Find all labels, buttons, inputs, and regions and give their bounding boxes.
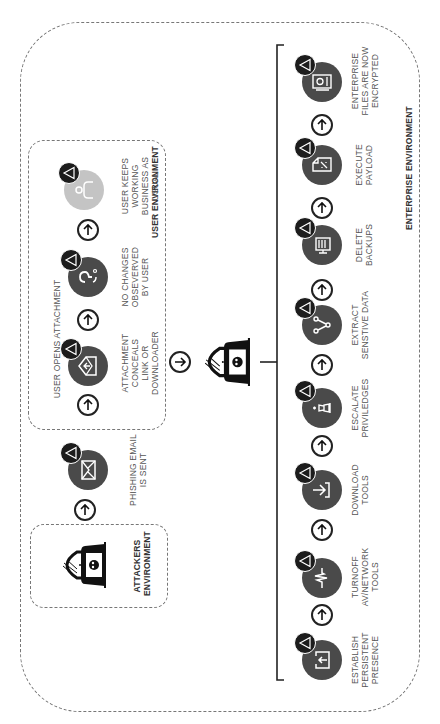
flow-arrow-right bbox=[311, 197, 333, 219]
warning-triangle-icon bbox=[298, 301, 312, 315]
warning-badge bbox=[294, 550, 316, 572]
encrypted-drive-icon bbox=[310, 70, 334, 94]
share-nodes-icon bbox=[310, 313, 334, 337]
warning-triangle-icon bbox=[298, 58, 312, 72]
pulse-icon bbox=[310, 566, 334, 590]
warning-badge bbox=[294, 137, 316, 159]
step-label: EXECUTE PAYLOAD bbox=[354, 128, 374, 202]
chess-king-icon bbox=[310, 396, 334, 420]
turnoff-av-node bbox=[302, 558, 342, 598]
step-label: ENTERPRISE FILES ARE NOW ENCRYPTED bbox=[350, 46, 380, 116]
step-label: ESTABLISH PERSISTENT PRESENCE bbox=[350, 630, 380, 690]
flow-arrow-right bbox=[311, 114, 333, 136]
files-encrypted-node bbox=[302, 62, 342, 102]
step-label: ESCALATE PRIVILEDGES bbox=[350, 376, 370, 440]
trash-icon bbox=[310, 233, 334, 257]
warning-triangle-icon bbox=[298, 384, 312, 398]
extract-data-node bbox=[302, 305, 342, 345]
step-label: DELETE BACKUPS bbox=[354, 210, 374, 280]
warning-badge bbox=[294, 54, 316, 76]
warning-badge bbox=[294, 380, 316, 402]
flow-arrow-right bbox=[311, 604, 333, 626]
download-tools-node bbox=[302, 470, 342, 510]
step-label: DOWNLOAD TOOLS bbox=[350, 460, 370, 520]
establish-presence-node bbox=[302, 640, 342, 680]
download-icon bbox=[310, 478, 334, 502]
warning-triangle-icon bbox=[298, 221, 312, 235]
flow-arrow-right bbox=[311, 279, 333, 301]
warning-badge bbox=[294, 297, 316, 319]
script-file-icon bbox=[310, 153, 334, 177]
escalate-privileges-node bbox=[302, 388, 342, 428]
delete-backups-node bbox=[302, 225, 342, 265]
ransomware-attack-diagram: ENTERPRISE ENVIRONMENT ATTACKERS ENVIRON… bbox=[0, 0, 440, 724]
warning-triangle-icon bbox=[298, 141, 312, 155]
step-label: TURNOFF AV/NETWORK TOOLS bbox=[350, 542, 380, 612]
warning-triangle-icon bbox=[298, 554, 312, 568]
warning-badge bbox=[294, 217, 316, 239]
warning-triangle-icon bbox=[298, 636, 312, 650]
warning-badge bbox=[294, 462, 316, 484]
step-label: EXTRACT SENSTIVE DATA bbox=[350, 290, 370, 360]
warning-triangle-icon bbox=[298, 466, 312, 480]
execute-payload-node bbox=[302, 145, 342, 185]
upload-box-icon bbox=[310, 648, 334, 672]
flow-arrow-right bbox=[311, 519, 333, 541]
flow-arrow-right bbox=[311, 354, 333, 376]
flow-arrow-right bbox=[311, 435, 333, 457]
warning-badge bbox=[294, 632, 316, 654]
